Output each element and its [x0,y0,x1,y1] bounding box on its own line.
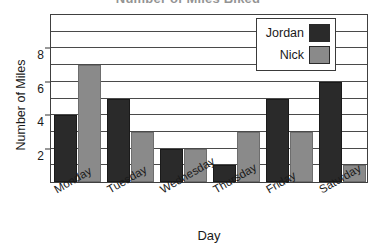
legend-label: Nick [280,48,304,62]
bar-saturday-jordan [319,82,342,182]
legend-label: Jordan [266,26,304,40]
bar-group [54,15,101,182]
bar-group [160,15,207,182]
legend-swatch [309,24,330,42]
legend-item-jordan: Jordan [262,22,330,44]
x-axis: MondayTuesdayWednesdayThursdayFridaySatu… [50,185,368,231]
chart-title: Number of Miles Biked [0,0,376,6]
bar-monday-nick [78,65,101,182]
x-axis-title: Day [50,228,368,243]
y-axis-title: Number of Miles [14,35,28,175]
chart-legend: JordanNick [256,18,336,71]
legend-item-nick: Nick [262,44,330,66]
legend-swatch [309,46,330,64]
bar-friday-jordan [266,99,289,183]
bar-group [107,15,154,182]
bar-tuesday-jordan [107,99,130,183]
bar-group [213,15,260,182]
